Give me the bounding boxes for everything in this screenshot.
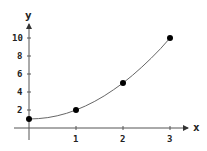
data-point [120, 80, 126, 86]
x-axis-label: x [193, 121, 200, 134]
data-point [167, 35, 173, 41]
y-tick-label: 4 [17, 87, 23, 97]
y-ticks: 2 4 6 8 10 [12, 33, 31, 115]
y-tick-label: 2 [17, 105, 22, 115]
curve [29, 38, 170, 119]
data-point [73, 107, 79, 113]
y-axis-label: y [25, 9, 32, 22]
data-points [26, 35, 173, 122]
y-tick-label: 10 [12, 33, 23, 43]
x-tick-label: 2 [120, 134, 125, 144]
y-tick-label: 6 [17, 69, 22, 79]
x-tick-label: 3 [167, 134, 172, 144]
y-tick-label: 8 [17, 51, 22, 61]
x-ticks: 1 2 3 [73, 126, 172, 144]
x-tick-label: 1 [73, 134, 78, 144]
data-point [26, 116, 32, 122]
chart: x y 1 2 3 2 4 6 8 10 [0, 0, 207, 151]
